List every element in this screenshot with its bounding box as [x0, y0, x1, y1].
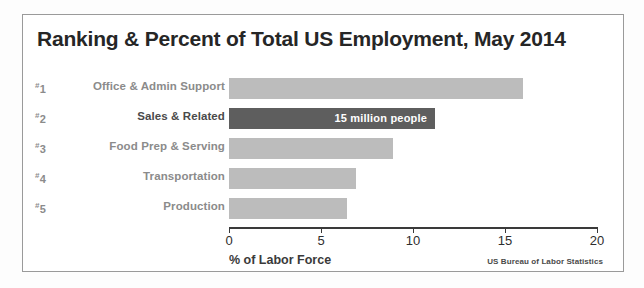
bar — [229, 138, 393, 159]
rank-label: #3 — [35, 141, 65, 155]
rank-number: 5 — [40, 203, 46, 215]
rank-label: #5 — [35, 201, 65, 215]
table-row: #4Transportation — [23, 165, 623, 195]
bar-track — [229, 195, 601, 225]
chart-card: Ranking & Percent of Total US Employment… — [22, 14, 624, 272]
table-row: #1Office & Admin Support — [23, 75, 623, 105]
category-label: Production — [67, 200, 225, 212]
axis-tick-label: 20 — [590, 233, 604, 248]
table-row: #3Food Prep & Serving — [23, 135, 623, 165]
axis-tick-label: 15 — [498, 233, 512, 248]
source-credit: US Bureau of Labor Statistics — [487, 257, 603, 266]
table-row: #2Sales & Related15 million people — [23, 105, 623, 135]
axis-tick-label: 10 — [406, 233, 420, 248]
bar: 15 million people — [229, 108, 435, 129]
bar-track — [229, 75, 601, 105]
rank-number: 1 — [40, 83, 46, 95]
bar-row-list: #1Office & Admin Support#2Sales & Relate… — [23, 75, 623, 227]
chart-plot-area: #1Office & Admin Support#2Sales & Relate… — [23, 75, 623, 271]
bar — [229, 198, 347, 219]
category-label: Office & Admin Support — [67, 80, 225, 92]
chart-title: Ranking & Percent of Total US Employment… — [37, 27, 609, 51]
bar-track: 15 million people — [229, 105, 601, 135]
bar-track — [229, 135, 601, 165]
screenshot-root: Ranking & Percent of Total US Employment… — [0, 0, 644, 288]
bar-value-label: 15 million people — [334, 108, 427, 129]
category-label: Food Prep & Serving — [67, 140, 225, 152]
x-axis: 05101520 % of Labor Force US Bureau of L… — [229, 227, 601, 271]
rank-number: 4 — [40, 173, 46, 185]
x-axis-label: % of Labor Force — [229, 253, 331, 267]
bar — [229, 168, 356, 189]
rank-label: #2 — [35, 111, 65, 125]
rank-number: 2 — [40, 113, 46, 125]
axis-tick-label: 5 — [317, 233, 324, 248]
axis-tick-label: 0 — [225, 233, 232, 248]
rank-number: 3 — [40, 143, 46, 155]
category-label: Transportation — [67, 170, 225, 182]
bar — [229, 78, 523, 99]
rank-label: #1 — [35, 81, 65, 95]
rank-label: #4 — [35, 171, 65, 185]
bar-track — [229, 165, 601, 195]
category-label: Sales & Related — [67, 110, 225, 122]
table-row: #5Production — [23, 195, 623, 225]
